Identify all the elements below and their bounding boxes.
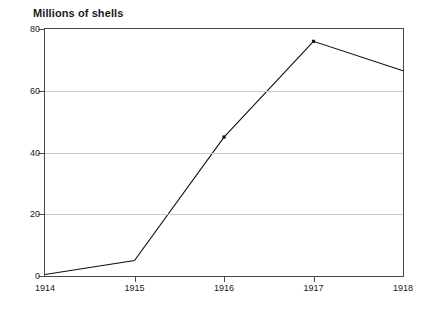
x-tick-label: 1915	[124, 283, 144, 293]
y-tick-mark	[38, 276, 44, 277]
y-tick-mark	[38, 29, 44, 30]
y-tick-label: 0	[14, 271, 40, 281]
y-tick-label: 60	[14, 86, 40, 96]
x-tick-label: 1914	[35, 283, 55, 293]
data-line	[45, 41, 403, 274]
data-point-marker	[312, 40, 315, 43]
gridline	[45, 91, 403, 92]
x-axis: 19141915191619171918	[44, 283, 404, 299]
gridline	[45, 214, 403, 215]
y-tick-label: 40	[14, 148, 40, 158]
x-tick-mark	[224, 277, 225, 282]
y-tick-mark	[38, 153, 44, 154]
chart-title: Millions of shells	[33, 7, 123, 19]
y-tick-mark	[38, 214, 44, 215]
gridline	[45, 153, 403, 154]
x-tick-mark	[314, 277, 315, 282]
y-tick-label: 20	[14, 209, 40, 219]
chart-container: Millions of shells 020406080 19141915191…	[0, 0, 422, 323]
y-tick-mark	[38, 91, 44, 92]
y-tick-label: 80	[14, 24, 40, 34]
y-axis: 020406080	[10, 28, 40, 277]
x-tick-mark	[135, 277, 136, 282]
data-point-marker	[222, 135, 225, 138]
x-tick-label: 1916	[214, 283, 234, 293]
x-tick-label: 1917	[303, 283, 323, 293]
x-tick-label: 1918	[393, 283, 413, 293]
plot-area	[44, 28, 404, 277]
